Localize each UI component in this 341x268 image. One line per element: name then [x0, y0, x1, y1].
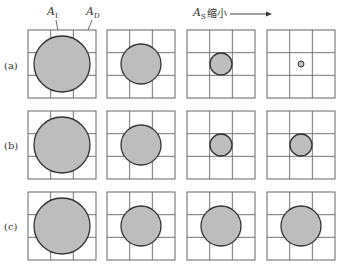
inclusion-circle: [298, 61, 304, 67]
label-inner-area: A I: [46, 5, 58, 20]
row-label-b: (b): [4, 140, 18, 151]
panel-b-1: [28, 111, 96, 179]
inclusion-circle: [34, 117, 90, 173]
svg-text:A: A: [192, 6, 201, 19]
label-domain-area: A D: [85, 5, 100, 20]
panel-a-1: [28, 30, 96, 98]
inclusion-circle: [121, 206, 161, 246]
svg-text:I: I: [55, 12, 58, 20]
panel-b-2: [107, 111, 175, 179]
inclusion-circle: [34, 36, 90, 92]
svg-text:缩小: 缩小: [207, 7, 227, 19]
panel-grid: [28, 30, 335, 260]
row-label-c: (c): [4, 221, 18, 232]
inclusion-circle: [290, 134, 312, 156]
panel-a-3: [187, 30, 255, 98]
arrow-right-icon: [230, 12, 272, 17]
inclusion-circle: [34, 198, 90, 254]
inclusion-circle: [210, 134, 232, 156]
inclusion-circle: [121, 44, 161, 84]
svg-text:A: A: [85, 5, 94, 18]
inclusion-circle: [281, 206, 321, 246]
inclusion-circle: [210, 53, 232, 75]
svg-text:D: D: [94, 12, 100, 20]
shrink-label: A S 缩小: [192, 6, 227, 21]
svg-text:S: S: [201, 13, 206, 21]
inclusion-circle: [121, 125, 161, 165]
panel-c-1: [28, 192, 96, 260]
panel-a-2: [107, 30, 175, 98]
panel-c-3: [187, 192, 255, 260]
panel-c-4: [267, 192, 335, 260]
diagram: A I A D A S 缩小 (a) (b) (c): [0, 0, 341, 268]
panel-b-3: [187, 111, 255, 179]
svg-text:A: A: [46, 5, 55, 18]
panel-b-4: [267, 111, 335, 179]
inclusion-circle: [201, 206, 241, 246]
panel-c-2: [107, 192, 175, 260]
row-label-a: (a): [4, 60, 18, 71]
panel-a-4: [267, 30, 335, 98]
